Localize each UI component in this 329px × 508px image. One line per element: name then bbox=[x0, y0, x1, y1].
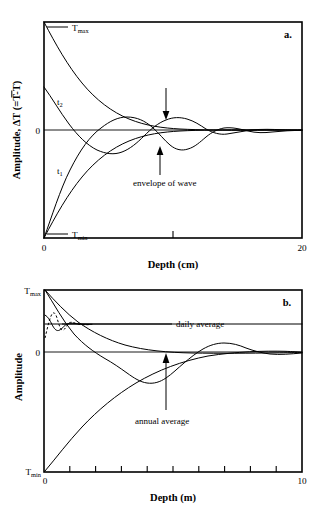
panel-b-label-tmin: Tmin bbox=[25, 467, 41, 478]
panel-a-envelope-arrow-up-head bbox=[157, 146, 164, 155]
panel-a-tbar-glyph: T bbox=[11, 84, 22, 91]
panel-b-lower-envelope bbox=[45, 351, 302, 471]
panel-b-xtick-0: 0 bbox=[43, 476, 48, 486]
panel-b-annotation-annual: annual average bbox=[135, 416, 189, 426]
panel-a-label-tmax: Tmax bbox=[72, 23, 89, 34]
panel-b-yaxis-title: Amplitude bbox=[13, 353, 24, 401]
panel-a-yaxis-title: Amplitude, ΔT (=T-T) bbox=[11, 80, 23, 179]
panel-b-axis-frame bbox=[44, 290, 302, 472]
panel-a-curve-t2 bbox=[44, 87, 302, 154]
panel-b-xaxis-title: Depth (m) bbox=[150, 492, 196, 504]
panel-a-upper-envelope bbox=[44, 22, 302, 130]
panel-a-xaxis-title: Depth (cm) bbox=[148, 259, 199, 271]
panel-b-ytick-zero: 0 bbox=[35, 348, 40, 358]
figure-container: Tmax Tmin 0 t2 t1 envelope of wave a. 0 … bbox=[0, 0, 329, 508]
panel-a-curve-label-t2: t2 bbox=[57, 97, 63, 108]
panel-b-xtick-max: 10 bbox=[297, 476, 307, 486]
panel-a-letter: a. bbox=[284, 29, 292, 40]
panel-b-annual-wave bbox=[45, 290, 302, 383]
panel-a-yaxis-title-group: Amplitude, ΔT (=T-T) bbox=[11, 80, 23, 179]
panel-b-annual-arrow-head bbox=[163, 353, 170, 363]
panel-b-label-tmax: Tmax bbox=[24, 286, 41, 297]
panel-b-yaxis-title-group: Amplitude bbox=[13, 353, 24, 401]
panel-b-annotation-daily: daily average bbox=[176, 319, 224, 329]
panel-a-ytick-zero: 0 bbox=[35, 126, 40, 136]
panel-b-xticks bbox=[70, 466, 276, 472]
panel-a-xtick-max: 20 bbox=[297, 243, 307, 253]
panel-a-curve-label-t1: t1 bbox=[57, 166, 63, 177]
panel-a: Tmax Tmin 0 t2 t1 envelope of wave a. 0 … bbox=[0, 0, 329, 272]
panel-b-daily-wave-solid bbox=[45, 315, 92, 331]
panel-a-label-tmin: Tmin bbox=[72, 230, 88, 241]
panel-b: Tmax Tmin 0 daily average annual average… bbox=[0, 272, 329, 508]
panel-b-letter: b. bbox=[283, 297, 292, 308]
panel-a-xtick-0: 0 bbox=[42, 243, 47, 253]
panel-a-annotation-envelope: envelope of wave bbox=[133, 178, 196, 188]
